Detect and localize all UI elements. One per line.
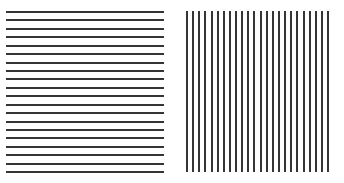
vertical-stripe-line	[296, 11, 298, 172]
vertical-stripe-line	[217, 11, 219, 172]
horizontal-stripe-line	[6, 11, 164, 13]
vertical-stripe-line	[303, 11, 305, 172]
horizontal-stripe-line	[6, 28, 164, 30]
vertical-stripe-line	[266, 11, 268, 172]
vertical-stripe-line	[223, 11, 225, 172]
figure-canvas	[0, 0, 344, 183]
horizontal-stripe-line	[6, 45, 164, 47]
vertical-stripe-line	[284, 11, 286, 172]
horizontal-stripe-line	[6, 87, 164, 89]
horizontal-stripe-line	[6, 154, 164, 156]
vertical-stripe-line	[229, 11, 231, 172]
vertical-stripe-line	[186, 11, 188, 172]
horizontal-stripe-line	[6, 70, 164, 72]
vertical-stripe-pattern	[186, 11, 329, 172]
vertical-stripe-line	[241, 11, 243, 172]
vertical-stripe-line	[198, 11, 200, 172]
horizontal-stripe-line	[6, 53, 164, 55]
vertical-stripe-line	[309, 11, 311, 172]
vertical-stripe-line	[235, 11, 237, 172]
vertical-stripe-line	[272, 11, 274, 172]
vertical-stripe-line	[315, 11, 317, 172]
horizontal-stripe-line	[6, 121, 164, 123]
vertical-stripe-line	[247, 11, 249, 172]
horizontal-stripe-line	[6, 163, 164, 165]
vertical-stripe-line	[192, 11, 194, 172]
horizontal-stripe-line	[6, 104, 164, 106]
horizontal-stripe-pattern	[6, 11, 164, 172]
vertical-stripe-line	[253, 11, 255, 172]
vertical-stripe-line	[211, 11, 213, 172]
horizontal-stripe-line	[6, 137, 164, 139]
horizontal-stripe-line	[6, 95, 164, 97]
horizontal-stripe-line	[6, 129, 164, 131]
vertical-stripe-line	[290, 11, 292, 172]
vertical-stripe-line	[321, 11, 323, 172]
vertical-stripe-line	[327, 11, 329, 172]
vertical-stripe-line	[278, 11, 280, 172]
horizontal-stripe-line	[6, 78, 164, 80]
horizontal-stripe-line	[6, 171, 164, 173]
horizontal-stripe-line	[6, 62, 164, 64]
horizontal-stripe-line	[6, 19, 164, 21]
vertical-stripe-line	[204, 11, 206, 172]
horizontal-stripe-line	[6, 36, 164, 38]
horizontal-stripe-line	[6, 112, 164, 114]
vertical-stripe-line	[260, 11, 262, 172]
horizontal-stripe-line	[6, 146, 164, 148]
